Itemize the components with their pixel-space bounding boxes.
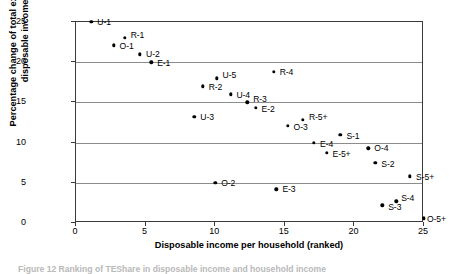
data-point bbox=[339, 133, 342, 136]
gridline-y-5 bbox=[76, 183, 422, 184]
data-point-label: O-5+ bbox=[427, 215, 446, 224]
data-point-label: S-5+ bbox=[416, 173, 434, 182]
data-point bbox=[123, 36, 126, 39]
data-point bbox=[149, 60, 152, 63]
data-point-label: U-1 bbox=[97, 18, 111, 27]
data-point-label: E-5+ bbox=[333, 150, 351, 159]
data-point-label: O-4 bbox=[374, 144, 388, 153]
data-point-label: O-3 bbox=[294, 123, 308, 132]
data-point bbox=[193, 115, 196, 118]
data-point bbox=[112, 44, 115, 47]
y-tick-label-10: 10 bbox=[2, 137, 26, 147]
plot-area: U-1O-1R-1U-2E-1U-3R-2U-5O-2U-4R-3E-2R-4E… bbox=[75, 21, 423, 222]
data-point bbox=[312, 141, 315, 144]
data-point bbox=[201, 85, 204, 88]
data-point-label: E-1 bbox=[157, 59, 170, 68]
x-tick-label-0: 0 bbox=[60, 226, 90, 236]
data-point-label: R-5+ bbox=[309, 113, 327, 122]
data-point-label: U-5 bbox=[223, 71, 237, 80]
data-point-label: S-1 bbox=[346, 132, 359, 141]
data-point-label: U-4 bbox=[237, 91, 251, 100]
data-point-label: R-4 bbox=[280, 68, 294, 77]
x-tick-label-5: 5 bbox=[130, 226, 160, 236]
y-axis-title: Percentage change of total expenditure s… bbox=[8, 0, 31, 127]
data-point-label: R-2 bbox=[209, 83, 223, 92]
data-point bbox=[422, 216, 425, 219]
figure-caption: Figure 12 Ranking of TEShare in disposab… bbox=[18, 264, 326, 274]
data-point-label: E-3 bbox=[282, 185, 295, 194]
data-point-label: R-1 bbox=[131, 31, 145, 40]
data-point bbox=[275, 188, 278, 191]
data-point-label: E-2 bbox=[262, 105, 275, 114]
data-point bbox=[381, 204, 384, 207]
data-point bbox=[272, 70, 275, 73]
data-point bbox=[367, 147, 370, 150]
x-tick-label-15: 15 bbox=[269, 226, 299, 236]
x-tick-label-10: 10 bbox=[199, 226, 229, 236]
data-point-label: O-2 bbox=[221, 179, 235, 188]
data-point bbox=[408, 175, 411, 178]
data-point bbox=[246, 101, 249, 104]
data-point bbox=[325, 151, 328, 154]
data-point bbox=[286, 124, 289, 127]
data-point bbox=[254, 106, 257, 109]
x-axis-title: Disposable income per household (ranked) bbox=[75, 240, 423, 250]
data-point bbox=[138, 52, 141, 55]
x-tick-label-20: 20 bbox=[338, 226, 368, 236]
data-point-label: S-3 bbox=[388, 203, 401, 212]
data-point bbox=[215, 77, 218, 80]
data-point bbox=[229, 93, 232, 96]
data-point-label: S-4 bbox=[401, 194, 414, 203]
y-tick-label-5: 5 bbox=[2, 177, 26, 187]
data-point bbox=[90, 20, 93, 23]
data-point bbox=[374, 161, 377, 164]
data-point-label: S-2 bbox=[381, 160, 394, 169]
gridline-y-10 bbox=[76, 143, 422, 144]
gridline-y-15 bbox=[76, 102, 422, 103]
data-point bbox=[213, 181, 216, 184]
data-point-label: O-1 bbox=[120, 42, 134, 51]
y-tick-label-0: 0 bbox=[2, 217, 26, 227]
x-tick-label-25: 25 bbox=[408, 226, 438, 236]
gridline-y-20 bbox=[76, 62, 422, 63]
data-point-label: U-3 bbox=[200, 113, 214, 122]
data-point-label: E-4 bbox=[320, 140, 333, 149]
